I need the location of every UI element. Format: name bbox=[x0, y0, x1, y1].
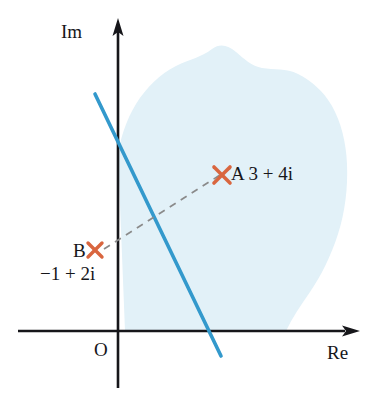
point-b-letter-label: B bbox=[73, 240, 86, 262]
real-axis-label: Re bbox=[327, 343, 348, 362]
point-b-value-label: −1 + 2i bbox=[40, 263, 95, 285]
point-a-label: A 3 + 4i bbox=[231, 163, 293, 185]
argand-diagram-figure: Im Re O A 3 + 4i B −1 + 2i bbox=[0, 0, 372, 403]
imaginary-axis-label: Im bbox=[61, 22, 82, 41]
point-b-cross-marker bbox=[88, 243, 102, 257]
shaded-half-plane bbox=[118, 45, 347, 331]
diagram-canvas bbox=[0, 0, 372, 403]
origin-label: O bbox=[94, 340, 108, 359]
